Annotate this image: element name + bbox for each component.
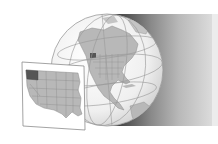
globe-graphic bbox=[0, 0, 218, 144]
illustration bbox=[0, 0, 218, 144]
inset-map bbox=[22, 62, 85, 130]
caption bbox=[0, 143, 1, 144]
globe-oregon-highlight bbox=[90, 53, 96, 58]
inset-oregon-highlight bbox=[26, 70, 38, 80]
